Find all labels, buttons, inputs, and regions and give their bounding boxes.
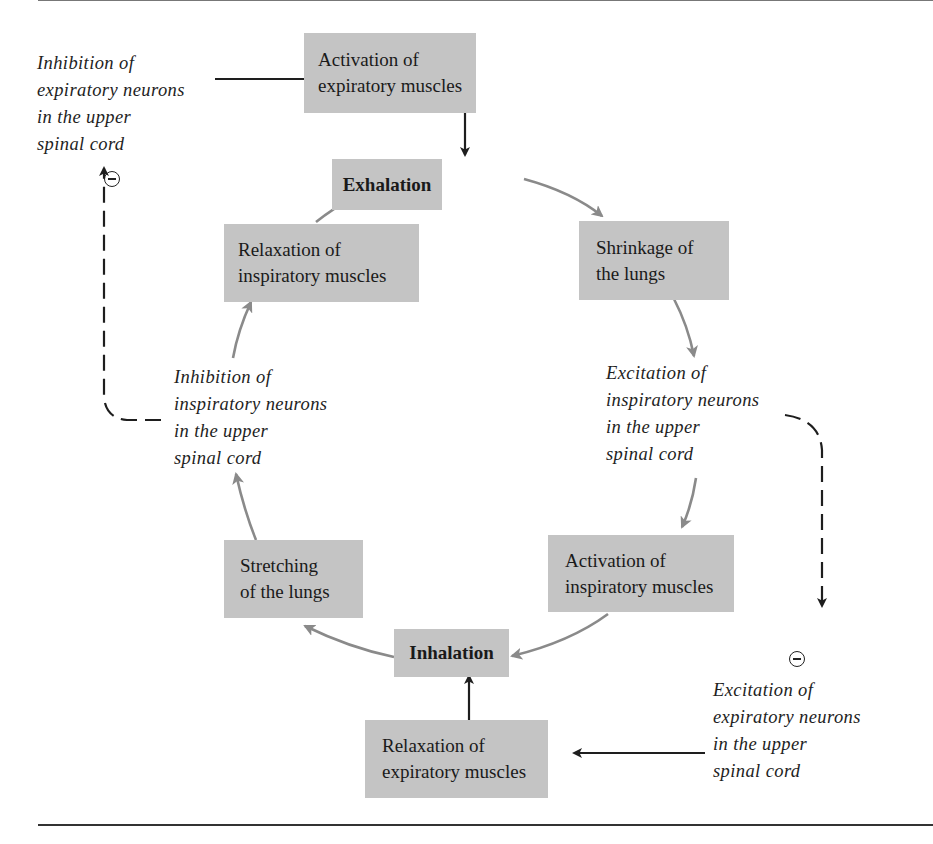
box-line: the lungs — [596, 261, 715, 287]
note-inhibition-of-expiratory-neurons: Inhibition of expiratory neurons in the … — [37, 50, 185, 158]
note-line: in the upper — [174, 418, 327, 445]
box-line: inspiratory muscles — [238, 263, 405, 289]
note-line: inspiratory neurons — [174, 391, 327, 418]
minus-circle-icon — [104, 171, 120, 187]
note-line: Inhibition of — [37, 50, 185, 77]
bottom-rule — [38, 824, 933, 826]
note-line: in the upper — [37, 104, 185, 131]
note-line: spinal cord — [174, 445, 327, 472]
arrow-inhalation-to-stretching — [305, 626, 394, 657]
box-activation-of-expiratory-muscles: Activation of expiratory muscles — [304, 33, 476, 113]
box-inhalation: Inhalation — [394, 629, 509, 677]
box-line: of the lungs — [240, 579, 349, 605]
box-line: Shrinkage of — [596, 235, 715, 261]
arrow-shrinkage-to-excit-insp — [674, 299, 694, 356]
note-excitation-of-expiratory-neurons: Excitation of expiratory neurons in the … — [713, 677, 861, 785]
note-line: expiratory neurons — [37, 77, 185, 104]
box-exhalation: Exhalation — [332, 159, 442, 210]
box-line: Inhalation — [409, 640, 493, 666]
box-line: expiratory muscles — [318, 73, 462, 99]
box-relaxation-of-expiratory-muscles: Relaxation of expiratory muscles — [365, 720, 548, 798]
arrow-inhib-insp-to-relax-insp — [233, 302, 251, 358]
note-line: Inhibition of — [174, 364, 327, 391]
box-stretching-of-the-lungs: Stretching of the lungs — [224, 540, 363, 618]
box-line: inspiratory muscles — [565, 574, 720, 600]
note-line: Excitation of — [606, 360, 759, 387]
box-line: Activation of — [565, 548, 720, 574]
arrow-activation-insp-to-inhalation — [512, 614, 608, 656]
box-line: Relaxation of — [382, 733, 534, 759]
arrow-stretching-to-inhib-insp — [236, 474, 256, 540]
note-inhibition-of-inspiratory-neurons: Inhibition of inspiratory neurons in the… — [174, 364, 327, 472]
box-line: expiratory muscles — [382, 759, 534, 785]
note-excitation-of-inspiratory-neurons: Excitation of inspiratory neurons in the… — [606, 360, 759, 468]
note-line: in the upper — [606, 414, 759, 441]
box-relaxation-of-inspiratory-muscles: Relaxation of inspiratory muscles — [224, 224, 419, 302]
box-line: Stretching — [240, 553, 349, 579]
box-activation-of-inspiratory-muscles: Activation of inspiratory muscles — [548, 535, 734, 612]
box-shrinkage-of-the-lungs: Shrinkage of the lungs — [579, 221, 729, 300]
note-line: spinal cord — [713, 758, 861, 785]
arrow-exhalation-to-shrinkage — [524, 179, 602, 216]
note-line: spinal cord — [606, 441, 759, 468]
note-line: inspiratory neurons — [606, 387, 759, 414]
dashed-excit-insp-to-excit-exp — [785, 415, 822, 606]
note-line: in the upper — [713, 731, 861, 758]
dashed-inhib-insp-to-inhib-exp — [104, 168, 161, 420]
box-line: Relaxation of — [238, 237, 405, 263]
box-line: Exhalation — [343, 172, 432, 198]
arrow-excit-insp-to-activation-insp — [682, 478, 696, 527]
note-line: expiratory neurons — [713, 704, 861, 731]
box-line: Activation of — [318, 47, 462, 73]
minus-circle-icon — [789, 651, 805, 667]
note-line: spinal cord — [37, 131, 185, 158]
note-line: Excitation of — [713, 677, 861, 704]
